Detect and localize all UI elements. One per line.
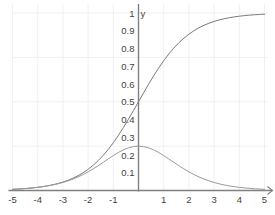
grid-lines [13,4,268,191]
x-tick-label: -1 [109,194,117,205]
x-axis-tick-labels: -5-4-3-2-112345 [8,194,267,205]
y-tick-label: 1 [129,8,134,19]
x-tick-label: 3 [211,194,216,205]
x-tick-label: -3 [59,194,67,205]
x-tick-label: -2 [84,194,92,205]
y-tick-label: 0.2 [121,150,134,161]
x-tick-label: 5 [262,194,267,205]
y-tick-label: 0.1 [121,167,134,178]
y-tick-label: 0.7 [121,61,134,72]
y-tick-label: 0.6 [121,79,134,90]
y-tick-label: 0.8 [121,43,134,54]
x-tick-label: 1 [161,194,166,205]
y-tick-label: 0.5 [121,96,134,107]
x-tick-label: 4 [237,194,242,205]
y-tick-label: 0.3 [121,132,134,143]
x-tick-label: 2 [186,194,191,205]
x-tick-label: -5 [8,194,16,205]
sigmoid-plot: 0.10.20.30.40.50.60.70.80.91 -5-4-3-2-11… [0,0,275,215]
plot-canvas: 0.10.20.30.40.50.60.70.80.91 -5-4-3-2-11… [0,0,275,215]
x-tick-label: -4 [33,194,41,205]
y-axis-tick-labels: 0.10.20.30.40.50.60.70.80.91 [121,8,134,179]
y-tick-label: 0.9 [121,25,134,36]
y-tick-label: 0.4 [121,114,134,125]
y-axis-label: y [141,8,146,19]
